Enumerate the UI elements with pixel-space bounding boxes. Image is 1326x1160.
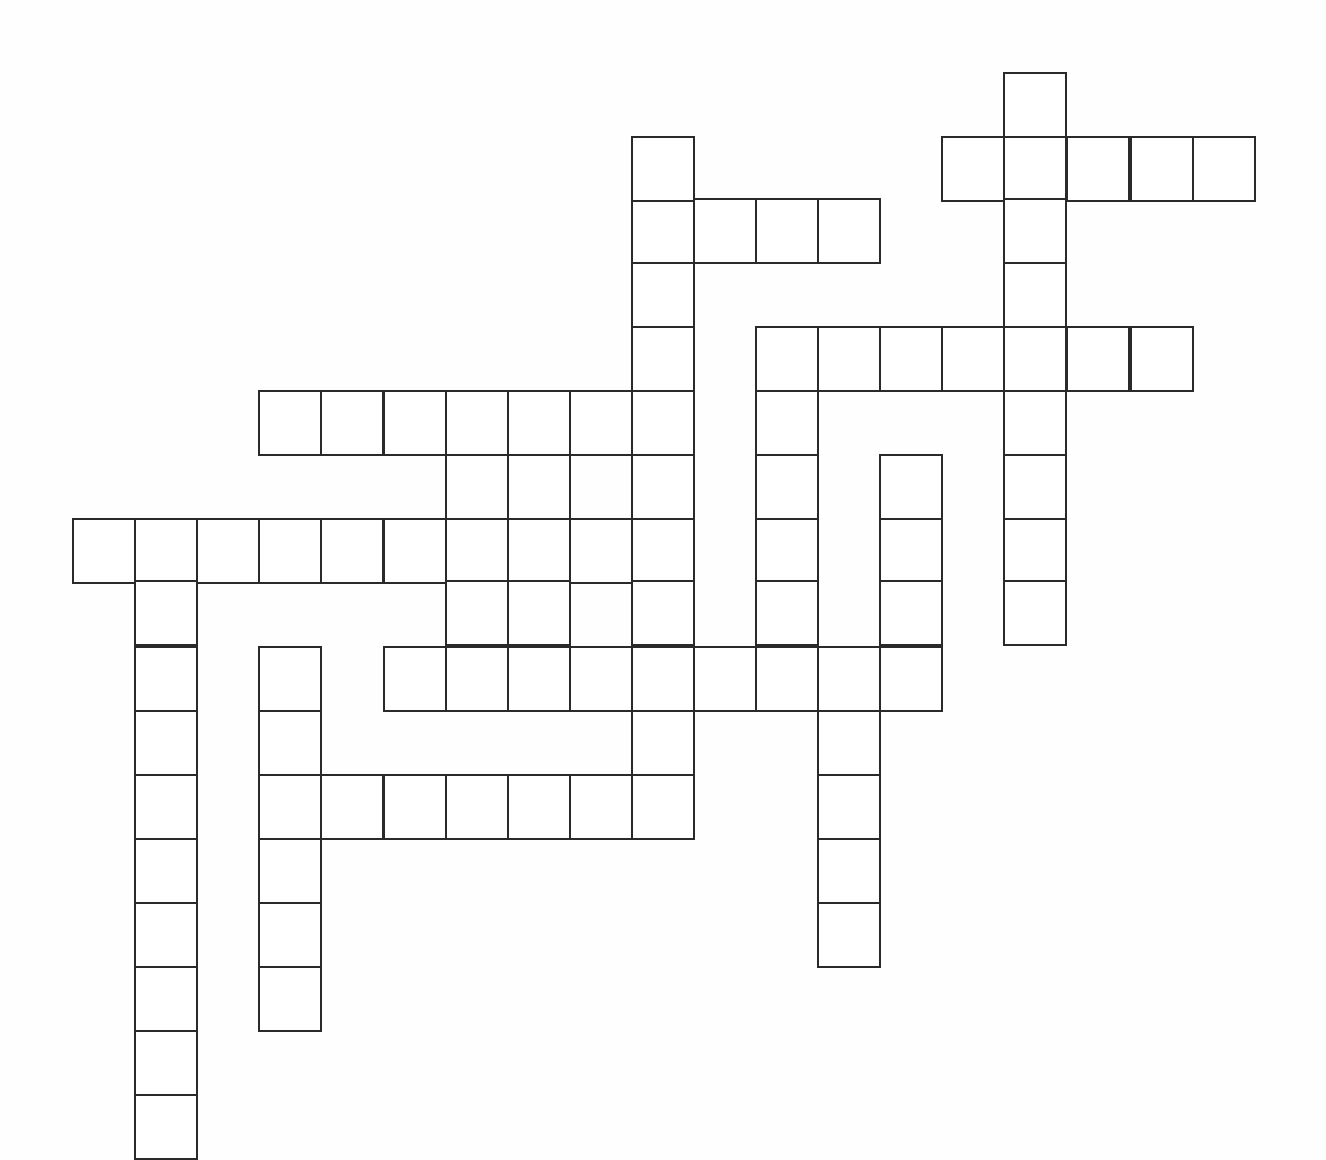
crossword-cell-input[interactable] xyxy=(1005,138,1065,200)
crossword-cell[interactable] xyxy=(134,646,198,712)
crossword-cell[interactable] xyxy=(879,518,943,584)
crossword-cell-input[interactable] xyxy=(136,648,196,710)
crossword-cell[interactable] xyxy=(879,326,943,392)
crossword-cell-input[interactable] xyxy=(819,776,879,838)
crossword-cell[interactable] xyxy=(134,1094,198,1160)
crossword-cell[interactable] xyxy=(1003,72,1067,138)
crossword-cell[interactable] xyxy=(134,966,198,1032)
crossword-cell[interactable] xyxy=(1003,580,1067,646)
crossword-cell-input[interactable] xyxy=(757,328,817,390)
crossword-cell-input[interactable] xyxy=(633,520,693,582)
crossword-cell-input[interactable] xyxy=(1005,456,1065,518)
crossword-cell-input[interactable] xyxy=(757,200,817,262)
crossword-cell-input[interactable] xyxy=(571,776,631,838)
crossword-cell[interactable] xyxy=(693,198,757,264)
crossword-cell[interactable] xyxy=(507,580,571,646)
crossword-cell[interactable] xyxy=(631,198,695,264)
crossword-cell-input[interactable] xyxy=(260,648,320,710)
crossword-cell-input[interactable] xyxy=(881,648,941,710)
crossword-cell[interactable] xyxy=(383,518,447,584)
crossword-cell[interactable] xyxy=(134,518,198,584)
crossword-cell-input[interactable] xyxy=(633,200,693,262)
crossword-cell-input[interactable] xyxy=(447,648,507,710)
crossword-cell-input[interactable] xyxy=(136,582,196,644)
crossword-cell-input[interactable] xyxy=(633,392,693,454)
crossword-cell[interactable] xyxy=(1192,136,1256,202)
crossword-cell[interactable] xyxy=(196,518,260,584)
crossword-cell-input[interactable] xyxy=(633,456,693,518)
crossword-cell-input[interactable] xyxy=(881,456,941,518)
crossword-cell[interactable] xyxy=(1130,326,1194,392)
crossword-cell-input[interactable] xyxy=(260,840,320,902)
crossword-cell-input[interactable] xyxy=(881,328,941,390)
crossword-cell-input[interactable] xyxy=(136,968,196,1030)
crossword-cell-input[interactable] xyxy=(322,776,382,838)
crossword-cell-input[interactable] xyxy=(447,456,507,518)
crossword-cell[interactable] xyxy=(817,710,881,776)
crossword-cell-input[interactable] xyxy=(819,648,879,710)
crossword-cell-input[interactable] xyxy=(1132,138,1192,200)
crossword-cell[interactable] xyxy=(134,902,198,968)
crossword-cell[interactable] xyxy=(1003,136,1067,202)
crossword-cell-input[interactable] xyxy=(633,138,693,200)
crossword-cell-input[interactable] xyxy=(757,582,817,644)
crossword-cell[interactable] xyxy=(569,518,633,584)
crossword-cell[interactable] xyxy=(1130,136,1194,202)
crossword-cell[interactable] xyxy=(258,838,322,904)
crossword-cell[interactable] xyxy=(1003,390,1067,456)
crossword-cell[interactable] xyxy=(755,326,819,392)
crossword-cell-input[interactable] xyxy=(385,520,445,582)
crossword-cell-input[interactable] xyxy=(509,456,569,518)
crossword-cell[interactable] xyxy=(445,454,509,520)
crossword-cell-input[interactable] xyxy=(1005,520,1065,582)
crossword-cell[interactable] xyxy=(755,198,819,264)
crossword-cell-input[interactable] xyxy=(509,648,569,710)
crossword-cell-input[interactable] xyxy=(757,520,817,582)
crossword-cell[interactable] xyxy=(258,518,322,584)
crossword-cell[interactable] xyxy=(1003,518,1067,584)
crossword-cell[interactable] xyxy=(755,454,819,520)
crossword-cell-input[interactable] xyxy=(633,328,693,390)
crossword-cell[interactable] xyxy=(755,518,819,584)
crossword-cell[interactable] xyxy=(817,198,881,264)
crossword-cell-input[interactable] xyxy=(136,1096,196,1158)
crossword-cell-input[interactable] xyxy=(447,520,507,582)
crossword-cell-input[interactable] xyxy=(1005,328,1065,390)
crossword-cell[interactable] xyxy=(445,580,509,646)
crossword-cell[interactable] xyxy=(1066,326,1130,392)
crossword-cell-input[interactable] xyxy=(757,392,817,454)
crossword-cell-input[interactable] xyxy=(633,712,693,774)
crossword-cell[interactable] xyxy=(569,390,633,456)
crossword-cell-input[interactable] xyxy=(1005,264,1065,326)
crossword-cell-input[interactable] xyxy=(571,520,631,582)
crossword-cell[interactable] xyxy=(320,774,384,840)
crossword-cell-input[interactable] xyxy=(633,582,693,644)
crossword-cell[interactable] xyxy=(941,326,1005,392)
crossword-cell[interactable] xyxy=(134,580,198,646)
crossword-cell[interactable] xyxy=(507,518,571,584)
crossword-cell-input[interactable] xyxy=(819,200,879,262)
crossword-cell[interactable] xyxy=(134,838,198,904)
crossword-cell[interactable] xyxy=(445,518,509,584)
crossword-cell[interactable] xyxy=(631,326,695,392)
crossword-cell[interactable] xyxy=(631,580,695,646)
crossword-cell-input[interactable] xyxy=(322,520,382,582)
crossword-cell-input[interactable] xyxy=(1068,328,1128,390)
crossword-cell-input[interactable] xyxy=(1194,138,1254,200)
crossword-cell-input[interactable] xyxy=(260,904,320,966)
crossword-cell-input[interactable] xyxy=(385,648,445,710)
crossword-cell[interactable] xyxy=(693,646,757,712)
crossword-cell-input[interactable] xyxy=(509,582,569,644)
crossword-cell-input[interactable] xyxy=(757,648,817,710)
crossword-cell-input[interactable] xyxy=(695,200,755,262)
crossword-cell-input[interactable] xyxy=(943,328,1003,390)
crossword-cell[interactable] xyxy=(1003,262,1067,328)
crossword-cell[interactable] xyxy=(631,710,695,776)
crossword-cell[interactable] xyxy=(1003,198,1067,264)
crossword-cell-input[interactable] xyxy=(757,456,817,518)
crossword-cell[interactable] xyxy=(941,136,1005,202)
crossword-cell-input[interactable] xyxy=(74,520,134,582)
crossword-cell[interactable] xyxy=(258,902,322,968)
crossword-cell[interactable] xyxy=(755,646,819,712)
crossword-cell-input[interactable] xyxy=(633,776,693,838)
